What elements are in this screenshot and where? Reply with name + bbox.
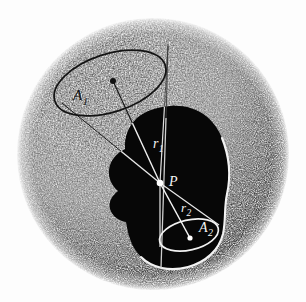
solid-angle-diagram: A1 r1 P r2 A2 bbox=[0, 0, 306, 302]
area-1-center-dot bbox=[110, 78, 116, 84]
label-area-2-subscript: 2 bbox=[208, 227, 213, 238]
label-radius-2-subscript: 2 bbox=[186, 208, 191, 218]
label-area-2-base: A bbox=[198, 220, 208, 235]
label-area-1-base: A bbox=[72, 87, 83, 103]
label-area-1-subscript: 1 bbox=[83, 96, 88, 107]
area-2-center-dot bbox=[187, 235, 192, 240]
point-p-marker bbox=[157, 180, 164, 187]
label-point-p: P bbox=[168, 174, 178, 189]
figure-container: A1 r1 P r2 A2 bbox=[0, 0, 306, 302]
label-radius-1-subscript: 1 bbox=[159, 143, 164, 154]
